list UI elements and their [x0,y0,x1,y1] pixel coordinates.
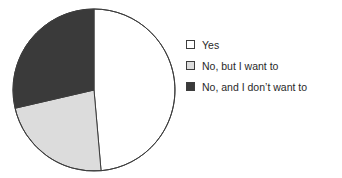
legend-item-label: Yes [202,39,219,51]
pie-slice-yes[interactable] [94,9,175,171]
legend-item-label: No, and I don’t want to [202,81,307,93]
legend-item-no-but-i-want-to[interactable]: No, but I want to [186,55,342,76]
legend-item-no-and-i-dont-want-to[interactable]: No, and I don’t want to [186,76,342,97]
pie-plot-area [10,6,180,176]
legend-item-yes[interactable]: Yes [186,34,342,55]
legend-swatch-icon [186,61,195,70]
chart-title [0,0,342,3]
legend-swatch-icon [186,40,195,49]
legend-swatch-icon [186,82,195,91]
pie-slices [13,9,175,171]
pie-svg [10,6,180,176]
chart-legend: Yes No, but I want to No, and I don’t wa… [186,34,342,97]
pie-chart-figure: Yes No, but I want to No, and I don’t wa… [0,0,342,178]
legend-item-label: No, but I want to [202,60,278,72]
